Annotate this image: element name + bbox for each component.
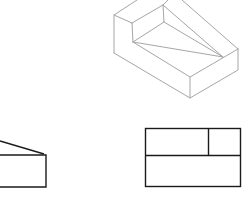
- iso-step-top-edge: [132, 0, 168, 23]
- side-view-slope-line: [0, 141, 44, 154]
- top-view-outline: [146, 129, 241, 187]
- side-view-box: [0, 155, 46, 187]
- iso-floor-back-edge: [133, 22, 164, 42]
- iso-step-vertical: [132, 23, 133, 42]
- iso-slope-upper-edge: [163, 5, 223, 57]
- iso-outer-slope-edge: [182, 0, 238, 49]
- side-view: [0, 141, 46, 187]
- technical-drawing: [0, 0, 249, 202]
- iso-front-top-edge: [133, 42, 238, 77]
- iso-inner-vertical: [163, 5, 164, 22]
- top-view: [146, 129, 241, 187]
- isometric-view: [114, 0, 238, 98]
- iso-left-top-edge: [114, 0, 137, 23]
